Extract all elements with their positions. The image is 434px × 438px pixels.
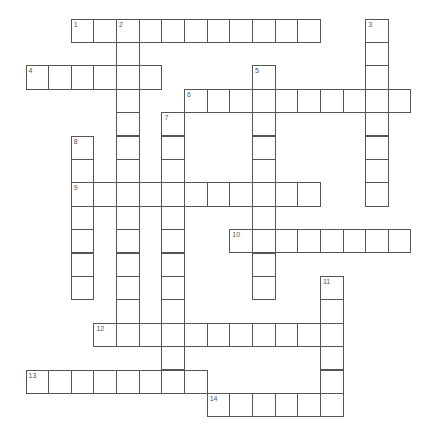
crossword-cell[interactable] [229, 182, 253, 206]
crossword-cell[interactable]: 6 [184, 89, 208, 113]
crossword-cell[interactable]: 11 [320, 276, 344, 300]
crossword-cell[interactable] [365, 182, 389, 206]
crossword-cell[interactable] [116, 370, 140, 394]
crossword-cell[interactable] [71, 65, 95, 89]
crossword-cell[interactable] [320, 346, 344, 370]
crossword-cell[interactable] [139, 65, 163, 89]
crossword-cell[interactable] [320, 299, 344, 323]
crossword-cell[interactable] [93, 19, 117, 43]
crossword-cell[interactable] [343, 229, 367, 253]
crossword-cell[interactable] [275, 229, 299, 253]
crossword-cell[interactable] [93, 65, 117, 89]
crossword-cell[interactable] [184, 182, 208, 206]
crossword-cell[interactable] [71, 229, 95, 253]
crossword-cell[interactable] [116, 229, 140, 253]
crossword-cell[interactable] [229, 89, 253, 113]
crossword-cell[interactable] [161, 136, 185, 160]
crossword-cell[interactable] [71, 159, 95, 183]
crossword-cell[interactable] [161, 229, 185, 253]
crossword-cell[interactable] [71, 253, 95, 277]
crossword-cell[interactable] [252, 229, 276, 253]
crossword-cell[interactable] [229, 393, 253, 417]
crossword-cell[interactable] [275, 323, 299, 347]
crossword-cell[interactable] [139, 182, 163, 206]
crossword-cell[interactable] [365, 65, 389, 89]
crossword-cell[interactable]: 13 [26, 370, 50, 394]
crossword-cell[interactable] [207, 89, 231, 113]
crossword-cell[interactable] [93, 182, 117, 206]
crossword-cell[interactable]: 2 [116, 19, 140, 43]
crossword-cell[interactable] [161, 182, 185, 206]
crossword-cell[interactable] [139, 323, 163, 347]
crossword-cell[interactable] [139, 370, 163, 394]
crossword-cell[interactable] [207, 323, 231, 347]
crossword-cell[interactable]: 4 [26, 65, 50, 89]
crossword-cell[interactable] [139, 19, 163, 43]
crossword-cell[interactable] [116, 253, 140, 277]
crossword-cell[interactable] [229, 323, 253, 347]
crossword-cell[interactable] [297, 182, 321, 206]
crossword-cell[interactable] [297, 89, 321, 113]
crossword-cell[interactable] [320, 89, 344, 113]
crossword-cell[interactable] [116, 136, 140, 160]
crossword-cell[interactable]: 14 [207, 393, 231, 417]
crossword-cell[interactable] [116, 323, 140, 347]
crossword-cell[interactable] [116, 182, 140, 206]
crossword-cell[interactable]: 7 [161, 112, 185, 136]
crossword-cell[interactable] [207, 19, 231, 43]
crossword-cell[interactable] [388, 229, 412, 253]
crossword-cell[interactable] [275, 393, 299, 417]
crossword-cell[interactable] [320, 393, 344, 417]
crossword-cell[interactable] [252, 112, 276, 136]
crossword-cell[interactable] [161, 299, 185, 323]
crossword-cell[interactable] [275, 89, 299, 113]
crossword-cell[interactable] [252, 136, 276, 160]
crossword-cell[interactable] [297, 229, 321, 253]
crossword-cell[interactable]: 12 [93, 323, 117, 347]
crossword-cell[interactable] [388, 89, 412, 113]
crossword-cell[interactable] [365, 42, 389, 66]
crossword-cell[interactable] [116, 89, 140, 113]
crossword-cell[interactable] [320, 229, 344, 253]
crossword-cell[interactable] [184, 370, 208, 394]
crossword-cell[interactable] [275, 19, 299, 43]
crossword-cell[interactable] [161, 19, 185, 43]
crossword-cell[interactable] [161, 276, 185, 300]
crossword-cell[interactable] [184, 323, 208, 347]
crossword-cell[interactable] [297, 323, 321, 347]
crossword-cell[interactable] [48, 370, 72, 394]
crossword-cell[interactable]: 8 [71, 136, 95, 160]
crossword-cell[interactable] [161, 323, 185, 347]
crossword-cell[interactable] [252, 276, 276, 300]
crossword-cell[interactable] [343, 89, 367, 113]
crossword-cell[interactable] [365, 159, 389, 183]
crossword-cell[interactable] [252, 206, 276, 230]
crossword-cell[interactable] [161, 253, 185, 277]
crossword-cell[interactable] [365, 89, 389, 113]
crossword-cell[interactable] [252, 159, 276, 183]
crossword-cell[interactable] [161, 159, 185, 183]
crossword-cell[interactable] [365, 136, 389, 160]
crossword-cell[interactable]: 3 [365, 19, 389, 43]
crossword-cell[interactable] [297, 393, 321, 417]
crossword-cell[interactable] [71, 370, 95, 394]
crossword-cell[interactable] [161, 346, 185, 370]
crossword-cell[interactable] [252, 182, 276, 206]
crossword-cell[interactable]: 1 [71, 19, 95, 43]
crossword-cell[interactable] [71, 276, 95, 300]
crossword-cell[interactable] [116, 65, 140, 89]
crossword-cell[interactable] [71, 206, 95, 230]
crossword-cell[interactable] [365, 229, 389, 253]
crossword-cell[interactable] [161, 206, 185, 230]
crossword-cell[interactable]: 10 [229, 229, 253, 253]
crossword-cell[interactable] [116, 299, 140, 323]
crossword-cell[interactable] [365, 112, 389, 136]
crossword-cell[interactable] [116, 206, 140, 230]
crossword-cell[interactable] [252, 253, 276, 277]
crossword-cell[interactable] [252, 323, 276, 347]
crossword-cell[interactable] [252, 19, 276, 43]
crossword-cell[interactable]: 5 [252, 65, 276, 89]
crossword-cell[interactable] [320, 323, 344, 347]
crossword-cell[interactable] [275, 182, 299, 206]
crossword-cell[interactable] [320, 370, 344, 394]
